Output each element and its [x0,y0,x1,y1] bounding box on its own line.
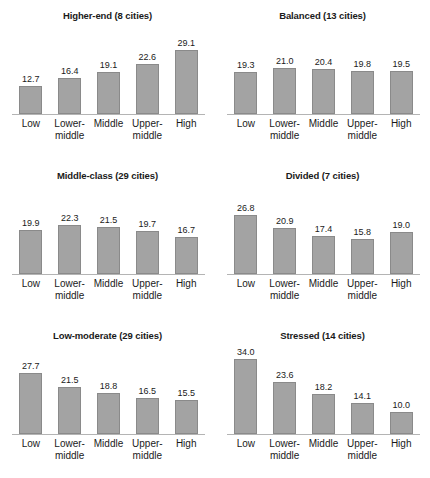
bar [390,71,413,114]
x-axis-label-line1: Lower- [54,118,85,129]
chart-panel-middle-class: Middle-class (29 cities)19.922.321.519.7… [0,160,215,320]
x-axis-label: Lower-middle [51,118,89,141]
panel-title: Stressed (14 cities) [215,320,430,343]
bar [234,72,257,114]
bar [234,215,257,274]
bar-group: 19.922.321.519.716.7 [12,183,205,274]
x-axis-label: High [382,118,420,141]
bar-group: 12.716.419.122.629.1 [12,23,205,114]
x-axis-label-line1: Lower- [269,438,300,449]
x-axis-label: High [167,278,205,301]
bar-slot: 16.4 [51,23,89,114]
plot-area: 12.716.419.122.629.1 [12,23,205,115]
axis-baseline [12,274,205,275]
bar [19,230,42,274]
panel-title: Higher-end (8 cities) [0,0,215,23]
bar-slot: 21.5 [90,183,128,274]
chart-panel-higher-end: Higher-end (8 cities)12.716.419.122.629.… [0,0,215,160]
bar [58,387,81,434]
axis-baseline [12,434,205,435]
x-axis-label: Upper-middle [129,278,167,301]
axis-baseline [227,434,420,435]
x-axis-label-line2: middle [266,450,304,462]
bar-value-label: 19.5 [392,59,410,70]
x-axis-labels: LowLower-middleMiddleUpper-middleHigh [12,115,205,141]
bar-value-label: 17.4 [315,224,333,235]
x-axis-label: Low [12,278,50,301]
bar-value-label: 23.6 [276,370,294,381]
x-axis-label: Upper-middle [129,118,167,141]
x-axis-label: Middle [305,438,343,461]
x-axis-label-line2: middle [266,130,304,142]
bar-slot: 16.7 [167,183,205,274]
x-axis-label: Upper-middle [129,438,167,461]
bar-value-label: 19.7 [139,219,157,230]
x-axis-label: Lower-middle [266,278,304,301]
bar [351,71,374,114]
bar-slot: 26.8 [227,183,265,274]
x-axis-label: Middle [305,118,343,141]
bar [175,237,198,274]
x-axis-label-line1: Lower- [54,278,85,289]
bar-slot: 10.0 [382,343,420,434]
bar [312,69,335,114]
x-axis-label: Middle [305,278,343,301]
x-axis-label-line1: Middle [309,438,338,449]
x-axis-labels: LowLower-middleMiddleUpper-middleHigh [227,275,420,301]
bar-slot: 27.7 [12,343,50,434]
x-axis-label-line1: High [176,438,197,449]
bar-value-label: 27.7 [22,361,40,372]
x-axis-label: Low [227,118,265,141]
bar-slot: 19.9 [12,183,50,274]
bar-slot: 19.0 [382,183,420,274]
x-axis-label-line1: High [391,438,412,449]
x-axis-label-line1: Upper- [347,118,378,129]
x-axis-label-line2: middle [51,290,89,302]
bar-value-label: 18.2 [315,382,333,393]
x-axis-label-line1: Upper- [132,118,163,129]
x-axis-label: Low [12,118,50,141]
bar-slot: 20.9 [266,183,304,274]
x-axis-label: High [382,438,420,461]
bar [273,68,296,114]
x-axis-label-line2: middle [51,450,89,462]
x-axis-label-line1: Low [237,438,255,449]
bar-slot: 29.1 [167,23,205,114]
small-multiples-bar-chart-figure: Higher-end (8 cities)12.716.419.122.629.… [0,0,430,478]
bar [97,72,120,114]
x-axis-label-line1: Middle [94,278,123,289]
bar [351,403,374,434]
bar-slot: 15.5 [167,343,205,434]
bar-value-label: 34.0 [237,347,255,358]
chart-panel-low-moderate: Low-moderate (29 cities)27.721.518.816.5… [0,320,215,478]
bar [312,394,335,434]
x-axis-label-line1: Upper- [132,438,163,449]
bar [19,373,42,434]
axis-baseline [227,114,420,115]
x-axis-label: Low [227,438,265,461]
x-axis-label: Middle [90,118,128,141]
x-axis-label-line1: Low [22,438,40,449]
x-axis-label-line1: Upper- [132,278,163,289]
x-axis-label-line1: Middle [309,278,338,289]
x-axis-label-line1: Lower- [269,118,300,129]
bar [97,227,120,274]
bar-slot: 20.4 [305,23,343,114]
x-axis-label-line2: middle [344,290,382,302]
bar-value-label: 10.0 [392,400,410,411]
x-axis-label-line1: High [391,118,412,129]
bar [312,236,335,274]
x-axis-label-line1: Upper- [347,438,378,449]
bar-value-label: 22.6 [139,52,157,63]
x-axis-label-line1: Low [22,118,40,129]
bar [58,78,81,114]
bar [175,50,198,114]
x-axis-label: Lower-middle [51,278,89,301]
bar-slot: 12.7 [12,23,50,114]
bar-group: 26.820.917.415.819.0 [227,183,420,274]
bar-slot: 18.8 [90,343,128,434]
bar-value-label: 21.5 [61,375,79,386]
bar-value-label: 16.5 [139,386,157,397]
bar-slot: 34.0 [227,343,265,434]
axis-baseline [12,114,205,115]
